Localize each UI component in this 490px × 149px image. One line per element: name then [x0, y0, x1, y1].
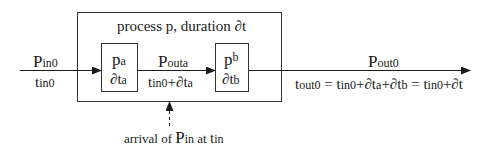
input-time-label: tin0: [35, 74, 55, 90]
sub-process-b-name: pb: [224, 51, 239, 68]
intermediate-time-label: tin0+∂ta: [148, 74, 193, 90]
arrival-label: arrival of Pin at tin: [124, 129, 223, 146]
output-packet-label: Pout0: [368, 53, 399, 70]
output-time-equation: tout0 = tin0+∂ta+∂tb = tin0+∂t: [295, 76, 463, 92]
intermediate-packet-label: Pouta: [158, 53, 188, 70]
input-packet-label: Pin0: [33, 53, 58, 70]
outer-box-title: process p, duration ∂t: [117, 19, 246, 34]
sub-process-a-name: pa: [112, 51, 126, 68]
sub-process-a-duration: ∂ta: [110, 71, 127, 87]
sub-process-b-duration: ∂tb: [222, 71, 240, 87]
